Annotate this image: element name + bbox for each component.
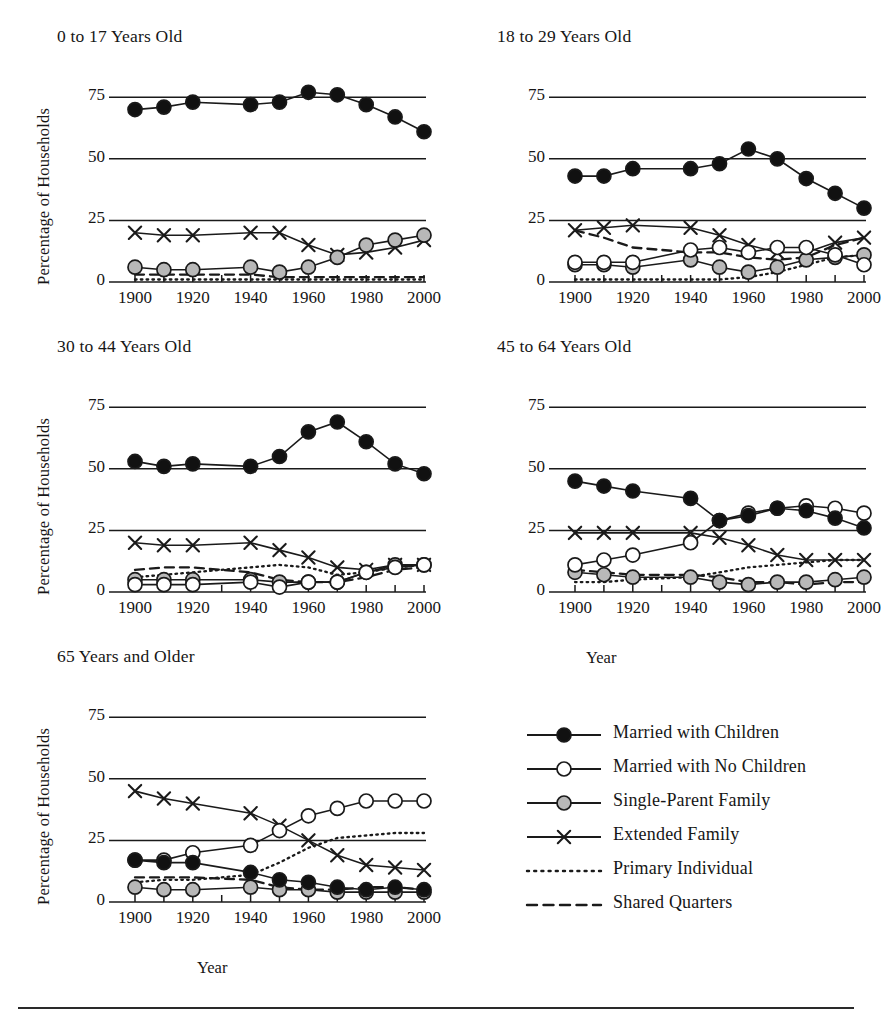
data-point-marker	[359, 883, 373, 897]
legend-marker-icon	[557, 728, 571, 742]
data-point-marker	[244, 865, 258, 879]
y-axis-tick-label: 25	[57, 828, 105, 848]
y-axis-tick-label: 50	[57, 767, 105, 787]
data-point-marker	[157, 883, 171, 897]
data-point-marker	[301, 809, 315, 823]
data-point-marker	[186, 856, 200, 870]
data-point-marker	[359, 794, 373, 808]
legend-label: Married with No Children	[613, 756, 806, 777]
data-point-marker	[128, 853, 142, 867]
series-married-with-no-children	[128, 794, 431, 867]
x-axis-label: Year	[586, 648, 616, 668]
data-point-marker	[129, 785, 141, 797]
legend-swatch-gray-circle-icon	[525, 786, 603, 820]
data-point-marker	[388, 880, 402, 894]
legend-swatch-open-circle-icon	[525, 752, 603, 786]
legend-label: Shared Quarters	[613, 892, 732, 913]
data-point-marker	[157, 856, 171, 870]
footer-rule	[18, 1007, 854, 1009]
data-point-marker	[388, 794, 402, 808]
legend-swatch-none-icon	[525, 888, 603, 922]
legend-label: Extended Family	[613, 824, 739, 845]
data-point-marker	[301, 875, 315, 889]
data-point-marker	[273, 824, 287, 838]
data-point-marker	[244, 880, 258, 894]
legend-marker-icon	[557, 796, 571, 810]
data-point-marker	[128, 880, 142, 894]
x-axis-label: Year	[197, 958, 227, 978]
data-point-marker	[186, 883, 200, 897]
legend-swatch-none-icon	[525, 854, 603, 888]
y-axis-tick-label: 75	[57, 705, 105, 725]
legend-label: Single-Parent Family	[613, 790, 770, 811]
legend-swatch-filled-circle-icon	[525, 718, 603, 752]
data-point-marker	[417, 794, 431, 808]
data-point-marker	[273, 873, 287, 887]
legend-swatch-cross-icon	[525, 820, 603, 854]
data-point-marker	[244, 838, 258, 852]
legend-label: Married with Children	[613, 722, 779, 743]
data-point-marker	[417, 883, 431, 897]
legend-label: Primary Individual	[613, 858, 753, 879]
data-point-marker	[330, 880, 344, 894]
data-point-marker	[331, 849, 343, 861]
data-point-marker	[330, 801, 344, 815]
legend-marker-icon	[557, 762, 571, 776]
x-axis-tick-label: 2000	[386, 908, 462, 928]
y-axis-tick-label: 0	[57, 890, 105, 910]
